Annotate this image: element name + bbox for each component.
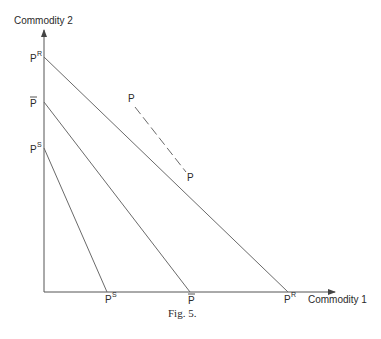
diagram-canvas: Commodity 2 Commodity 1 P R P P S P S P … [0, 0, 381, 339]
budget-line-pr [44, 57, 288, 292]
budget-line-ps [44, 148, 107, 292]
x-axis-label: Commodity 1 [308, 294, 367, 305]
x-label-pr: P R [284, 291, 296, 305]
svg-text:S: S [37, 141, 42, 148]
svg-text:R: R [291, 291, 296, 298]
y-label-pr: P R [30, 50, 42, 64]
svg-text:S: S [112, 291, 117, 298]
x-label-ps: P S [105, 291, 117, 305]
svg-text:R: R [37, 50, 42, 57]
dashed-label-top: P [128, 93, 135, 104]
x-label-pbar: P [188, 294, 195, 306]
svg-text:P: P [30, 53, 37, 64]
y-axis-label: Commodity 2 [14, 15, 73, 26]
y-label-pbar: P [30, 97, 37, 109]
dashed-label-bottom: P [187, 172, 194, 183]
svg-text:P: P [105, 294, 112, 305]
dashed-price-line [135, 107, 186, 172]
svg-text:P: P [30, 98, 37, 109]
figure-caption: Fig. 5. [168, 307, 197, 319]
svg-text:P: P [188, 295, 195, 306]
svg-text:P: P [284, 294, 291, 305]
svg-text:P: P [30, 144, 37, 155]
y-label-ps: P S [30, 141, 42, 155]
